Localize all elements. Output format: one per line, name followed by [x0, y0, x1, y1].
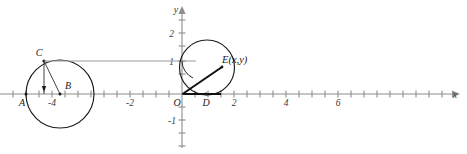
- geometry-diagram: x y -4 -2 2 4 6: [0, 0, 467, 154]
- y-tick-label-2: 2: [169, 29, 174, 39]
- x-axis-label: x: [452, 89, 458, 100]
- x-tick-label-neg4: -4: [48, 98, 56, 108]
- x-tick-label-4: 4: [284, 98, 289, 108]
- y-axis-arrow-icon: [178, 6, 185, 14]
- point-label-d: D: [201, 97, 210, 108]
- point-dot-e: [221, 66, 224, 69]
- y-tick-label-neg1: -1: [168, 116, 176, 126]
- x-tick-label-2: 2: [232, 98, 237, 108]
- point-dot-d: [205, 93, 208, 96]
- terminal-ray-group: [183, 66, 224, 96]
- figure-root: x y -4 -2 2 4 6: [0, 0, 467, 154]
- angle-arc-at-origin: [182, 61, 193, 78]
- point-label-o: O: [173, 97, 180, 108]
- y-tick-labels: 2 1 -1: [168, 29, 176, 127]
- x-tick-label-neg2: -2: [126, 98, 134, 108]
- right-circle-group: [180, 40, 235, 95]
- unit-circle: [180, 40, 235, 95]
- point-label-b: B: [65, 80, 71, 91]
- point-label-a: A: [18, 97, 26, 108]
- y-axis-group: y: [173, 4, 186, 148]
- point-dot-a: [25, 93, 28, 96]
- segment-b-c: [44, 61, 60, 94]
- segment-c-foot-arrow-icon: [42, 86, 46, 92]
- point-label-c: C: [36, 47, 43, 58]
- segment-o-e: [183, 67, 223, 94]
- point-label-e: E(x,y): [221, 54, 248, 66]
- y-axis-label: y: [173, 4, 179, 15]
- point-dot-b: [59, 93, 62, 96]
- x-tick-label-6: 6: [336, 98, 341, 108]
